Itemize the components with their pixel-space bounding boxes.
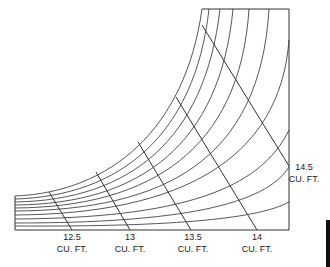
curve-line xyxy=(15,9,220,202)
label-12-5: 12.5 CU. FT. xyxy=(52,231,92,255)
label-14-5: 14.5 CU. FT. xyxy=(284,161,324,185)
label-value: 14 xyxy=(237,231,277,243)
label-unit: CU. FT. xyxy=(284,173,324,185)
volume-line xyxy=(202,25,289,166)
label-unit: CU. FT. xyxy=(52,243,92,255)
curve-line xyxy=(15,9,249,208)
label-13-5: 13.5 CU. FT. xyxy=(173,231,213,255)
label-value: 13.5 xyxy=(173,231,213,243)
label-13: 13 CU. FT. xyxy=(110,231,150,255)
curve-line xyxy=(15,9,202,196)
label-value: 14.5 xyxy=(284,161,324,173)
label-14: 14 CU. FT. xyxy=(237,231,277,255)
curve-family xyxy=(15,9,289,226)
label-unit: CU. FT. xyxy=(110,243,150,255)
label-unit: CU. FT. xyxy=(173,243,213,255)
page-edge-tab xyxy=(326,220,330,267)
label-value: 13 xyxy=(110,231,150,243)
volume-line xyxy=(176,97,257,230)
volume-lines xyxy=(49,25,289,230)
label-unit: CU. FT. xyxy=(237,243,277,255)
nomograph-diagram xyxy=(0,0,330,267)
label-value: 12.5 xyxy=(52,231,92,243)
curve-line xyxy=(15,9,269,211)
